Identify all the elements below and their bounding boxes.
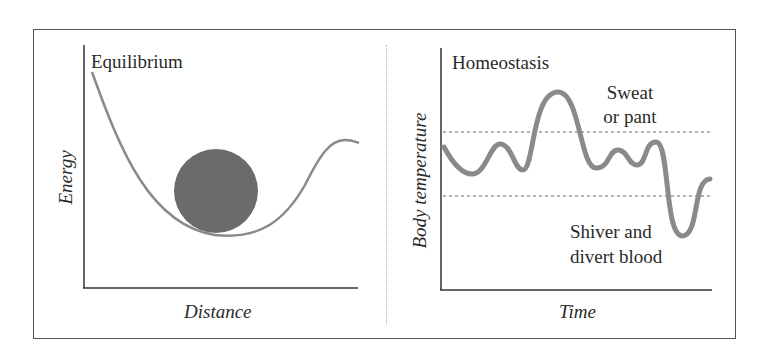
body-temperature-curve <box>444 92 710 236</box>
time-axis-label: Time <box>559 302 596 321</box>
sweat-annotation-line2: or pant <box>590 107 670 126</box>
equilibrium-title: Equilibrium <box>91 52 183 71</box>
sweat-annotation-line1: Sweat <box>590 83 670 102</box>
ball <box>174 149 258 233</box>
energy-axis-label: Energy <box>56 143 75 213</box>
shiver-annotation-line1: Shiver and <box>570 222 652 241</box>
equilibrium-plot <box>83 45 359 288</box>
body-temperature-axis-label: Body temperature <box>410 99 429 263</box>
distance-axis-label: Distance <box>184 302 252 321</box>
shiver-annotation-line2: divert blood <box>570 247 662 266</box>
homeostasis-title: Homeostasis <box>452 53 549 72</box>
